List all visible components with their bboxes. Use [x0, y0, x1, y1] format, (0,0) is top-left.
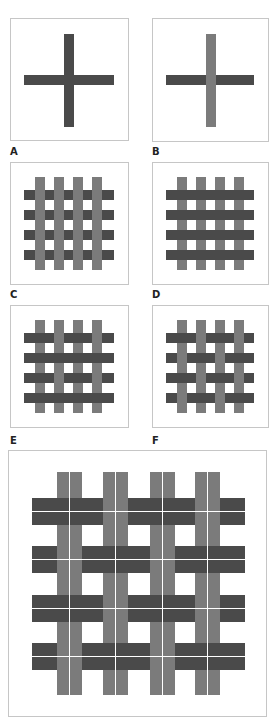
- horizontal-thread: [166, 210, 254, 220]
- vertical-over-crossing: [70, 657, 82, 670]
- thread-gap: [207, 472, 208, 695]
- vertical-over-crossing: [150, 657, 162, 670]
- vertical-over-crossing: [208, 498, 220, 511]
- panel-f: [152, 305, 269, 428]
- vertical-over-crossing: [163, 560, 175, 573]
- vertical-over-crossing: [35, 190, 45, 200]
- panel-e: [10, 305, 129, 428]
- vertical-over-crossing: [195, 498, 207, 511]
- vertical-over-crossing: [35, 230, 45, 240]
- vertical-over-crossing: [116, 512, 128, 525]
- thread-gap: [115, 472, 116, 695]
- panel-label-c: C: [10, 290, 17, 300]
- vertical-over-crossing: [73, 250, 83, 260]
- vertical-over-crossing: [196, 373, 206, 383]
- panel-label-b: B: [152, 147, 160, 157]
- vertical-over-crossing: [150, 560, 162, 573]
- vertical-over-crossing: [54, 333, 64, 343]
- vertical-over-crossing: [234, 373, 244, 383]
- vertical-over-crossing: [73, 230, 83, 240]
- horizontal-thread: [24, 353, 114, 363]
- panel-label-e: E: [10, 436, 17, 446]
- panel-label-d: D: [152, 290, 160, 300]
- panel-g: [8, 450, 267, 717]
- vertical-over-crossing: [196, 333, 206, 343]
- vertical-over-crossing: [208, 512, 220, 525]
- vertical-over-crossing: [177, 353, 187, 363]
- horizontal-thread: [166, 230, 254, 240]
- vertical-over-crossing: [208, 609, 220, 622]
- vertical-over-crossing: [163, 643, 175, 656]
- vertical-over-crossing: [103, 595, 115, 608]
- vertical-over-crossing: [215, 353, 225, 363]
- vertical-over-crossing: [70, 546, 82, 559]
- vertical-over-crossing: [163, 546, 175, 559]
- vertical-over-crossing: [215, 393, 225, 403]
- vertical-over-crossing: [150, 546, 162, 559]
- vertical-over-crossing: [116, 609, 128, 622]
- panel-label-a: A: [10, 147, 18, 157]
- vertical-over-crossing: [70, 643, 82, 656]
- vertical-over-crossing: [177, 393, 187, 403]
- vertical-over-crossing: [54, 210, 64, 220]
- vertical-over-crossing: [57, 657, 69, 670]
- vertical-over-crossing: [57, 546, 69, 559]
- vertical-over-crossing: [54, 190, 64, 200]
- vertical-over-crossing: [195, 595, 207, 608]
- vertical-over-crossing: [116, 498, 128, 511]
- panel-d: [152, 162, 269, 285]
- horizontal-thread: [166, 250, 254, 260]
- vertical-over-crossing: [163, 657, 175, 670]
- vertical-over-crossing: [103, 498, 115, 511]
- vertical-over-crossing: [92, 373, 102, 383]
- vertical-over-crossing: [57, 560, 69, 573]
- vertical-over-crossing: [195, 609, 207, 622]
- thread-gap: [69, 472, 70, 695]
- thread-gap: [32, 511, 245, 512]
- vertical-over-crossing: [103, 609, 115, 622]
- vertical-over-crossing: [150, 643, 162, 656]
- thread-gap: [162, 472, 163, 695]
- vertical-over-crossing: [103, 512, 115, 525]
- vertical-over-crossing: [92, 190, 102, 200]
- vertical-thread: [64, 34, 74, 127]
- panel-c: [10, 162, 129, 285]
- vertical-over-crossing: [54, 230, 64, 240]
- horizontal-thread: [166, 190, 254, 200]
- vertical-over-crossing: [234, 333, 244, 343]
- vertical-over-crossing: [92, 230, 102, 240]
- vertical-over-crossing: [73, 190, 83, 200]
- thread-gap: [32, 656, 245, 657]
- vertical-over-crossing: [195, 512, 207, 525]
- vertical-over-crossing: [92, 210, 102, 220]
- thread-gap: [32, 608, 245, 609]
- vertical-over-crossing: [208, 595, 220, 608]
- vertical-over-crossing: [92, 250, 102, 260]
- vertical-over-crossing: [116, 595, 128, 608]
- panel-label-f: F: [152, 436, 159, 446]
- horizontal-thread: [24, 393, 114, 403]
- vertical-thread: [206, 34, 216, 127]
- vertical-over-crossing: [54, 250, 64, 260]
- vertical-over-crossing: [35, 250, 45, 260]
- vertical-over-crossing: [54, 373, 64, 383]
- vertical-over-crossing: [35, 210, 45, 220]
- vertical-over-crossing: [70, 560, 82, 573]
- vertical-over-crossing: [92, 333, 102, 343]
- vertical-over-crossing: [57, 643, 69, 656]
- vertical-over-crossing: [73, 210, 83, 220]
- thread-gap: [32, 559, 245, 560]
